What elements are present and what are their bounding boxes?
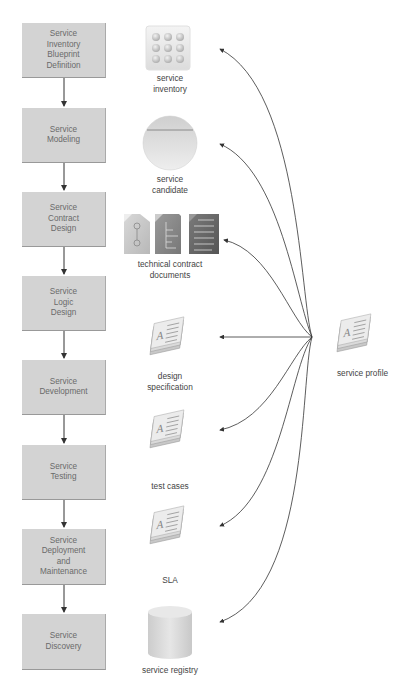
circle-icon — [143, 116, 197, 170]
grid-icon — [146, 26, 190, 70]
label-technical-contract-documents: technical contract documents — [120, 259, 220, 280]
label-service-inventory: service inventory — [130, 73, 210, 94]
document-stack-icon-service-profile — [337, 314, 371, 352]
document-stack-icon-design-specification — [150, 317, 184, 355]
label-sla: SLA — [130, 575, 210, 586]
document-stack-icon-sla — [150, 506, 184, 544]
database-icon — [148, 606, 192, 659]
document-stack-icon-test-cases — [150, 410, 184, 448]
profile-arrows — [220, 49, 312, 622]
label-service-profile: service profile — [320, 368, 405, 379]
diagram-graphics: A — [0, 0, 415, 689]
documents-icon — [124, 214, 219, 254]
label-design-specification: design specification — [130, 371, 210, 392]
label-service-candidate: service candidate — [130, 174, 210, 195]
label-test-cases: test cases — [130, 481, 210, 492]
label-service-registry: service registry — [125, 665, 215, 676]
